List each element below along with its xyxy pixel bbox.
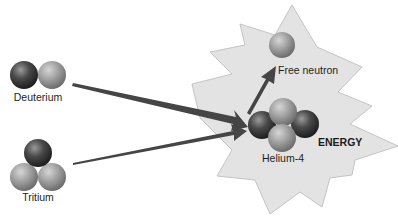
deuterium-nucleus <box>10 61 66 89</box>
neutron-sphere <box>38 163 66 191</box>
helium-4-label: Helium-4 <box>262 152 304 164</box>
energy-label: ENERGY <box>318 136 362 148</box>
tritium-label: Tritium <box>22 191 54 203</box>
tritium-nucleus <box>10 139 66 191</box>
proton-sphere <box>10 61 38 89</box>
free-neutron-label: Free neutron <box>278 64 338 76</box>
neutron-sphere <box>10 163 38 191</box>
proton-sphere <box>24 139 52 167</box>
neutron-sphere <box>268 124 296 152</box>
neutron-sphere <box>269 98 297 126</box>
fusion-diagram: Deuterium Tritium Free neutron Helium-4 … <box>0 0 398 217</box>
neutron-sphere <box>38 61 66 89</box>
deuterium-label: Deuterium <box>14 91 63 103</box>
free-neutron-sphere <box>269 32 295 58</box>
